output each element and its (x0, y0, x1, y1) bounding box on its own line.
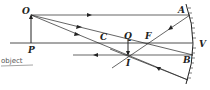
ray-diagram: O P C Q F I A B V object (0, 0, 210, 90)
label-q: Q (124, 31, 132, 41)
ray-arrow-icon (168, 25, 173, 30)
label-c: C (100, 32, 108, 42)
ray-arrow-icon (93, 53, 98, 57)
ray-arrow-icon (74, 32, 80, 36)
ray-a-f-i (112, 15, 190, 68)
ray-arrow-icon (87, 13, 92, 17)
label-v: V (199, 39, 207, 49)
label-p: P (27, 45, 35, 55)
ray-o-steep (31, 15, 188, 80)
handwritten-note: object (1, 57, 23, 65)
note-underline (1, 65, 33, 66)
label-b: B (182, 55, 191, 65)
ray-bottom-back (110, 49, 188, 80)
label-o: O (22, 6, 30, 16)
label-f: F (144, 31, 152, 41)
concave-mirror (186, 4, 193, 84)
ray-o-c-b (31, 15, 193, 55)
label-i: I (125, 58, 131, 68)
ray-arrow-icon (76, 25, 82, 29)
label-a: A (177, 5, 185, 15)
